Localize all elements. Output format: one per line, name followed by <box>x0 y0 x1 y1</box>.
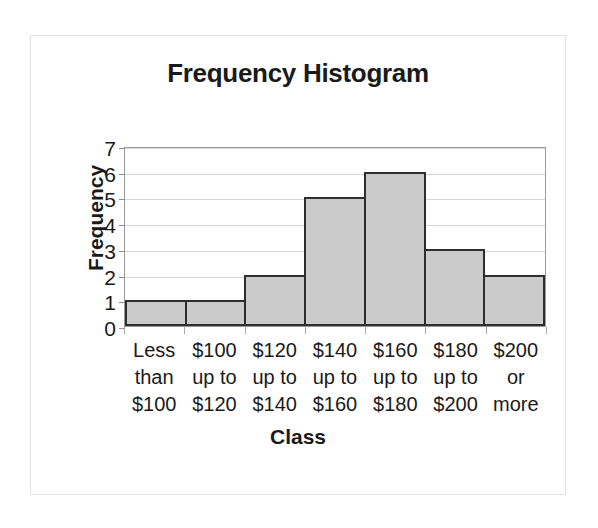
x-axis-ticks <box>124 327 546 334</box>
x-category-label-line: $120 <box>184 391 244 418</box>
x-category-label: $160up to$180 <box>365 337 425 418</box>
x-tick-mark <box>486 327 487 334</box>
x-category-label-line: $120 <box>245 337 305 364</box>
x-category-label: $100up to$120 <box>184 337 244 418</box>
x-tick-mark <box>425 327 426 334</box>
x-category-label-line: $180 <box>365 391 425 418</box>
histogram-bar <box>424 249 486 326</box>
x-category-label-line: more <box>486 391 546 418</box>
x-category-label: Lessthan$100 <box>124 337 184 418</box>
x-tick-mark <box>184 327 185 334</box>
chart-frame: Frequency Histogram Frequency 76543210 L… <box>30 35 566 495</box>
x-category-label-line: or <box>486 364 546 391</box>
x-category-label: $140up to$160 <box>305 337 365 418</box>
x-category-label-line: $140 <box>245 391 305 418</box>
histogram-bar <box>364 172 426 326</box>
x-category-label-line: up to <box>365 364 425 391</box>
x-category-label-line: Less <box>124 337 184 364</box>
histogram-bar <box>244 275 306 326</box>
x-tick-mark <box>365 327 366 334</box>
plot-area: 76543210 <box>124 147 546 327</box>
histogram-screenshot: Frequency Histogram Frequency 76543210 L… <box>0 0 598 528</box>
x-category-label-line: up to <box>245 364 305 391</box>
y-tick-label: 2 <box>104 266 116 287</box>
x-tick-mark <box>546 327 547 334</box>
y-tick-label: 5 <box>104 189 116 210</box>
bars-container <box>125 148 545 326</box>
chart-title: Frequency Histogram <box>31 58 565 89</box>
histogram-bar <box>483 275 545 326</box>
y-tick-label: 7 <box>104 138 116 159</box>
x-tick-mark <box>305 327 306 334</box>
x-category-label: $200ormore <box>486 337 546 418</box>
x-category-label-line: up to <box>305 364 365 391</box>
y-tick-label: 6 <box>104 163 116 184</box>
x-category-label-line: $140 <box>305 337 365 364</box>
x-category-label-line: $100 <box>124 391 184 418</box>
x-category-label-line: $200 <box>486 337 546 364</box>
histogram-bar <box>125 300 187 326</box>
y-tick-label: 0 <box>104 318 116 339</box>
x-axis-baseline <box>125 324 545 326</box>
x-axis-labels: Lessthan$100$100up to$120$120up to$140$1… <box>124 337 546 418</box>
x-axis-title: Class <box>31 425 565 449</box>
x-category-label-line: $160 <box>305 391 365 418</box>
y-tick-label: 1 <box>104 292 116 313</box>
x-category-label-line: $160 <box>365 337 425 364</box>
x-category-label: $120up to$140 <box>245 337 305 418</box>
x-category-label-line: up to <box>425 364 485 391</box>
x-category-label-line: up to <box>184 364 244 391</box>
x-category-label-line: $100 <box>184 337 244 364</box>
x-category-label-line: $200 <box>425 391 485 418</box>
histogram-bar <box>304 197 366 326</box>
x-category-label-line: $180 <box>425 337 485 364</box>
y-tick-label: 4 <box>104 215 116 236</box>
x-tick-mark <box>124 327 125 334</box>
x-tick-mark <box>245 327 246 334</box>
x-category-label: $180up to$200 <box>425 337 485 418</box>
x-category-label-line: than <box>124 364 184 391</box>
y-tick-label: 3 <box>104 240 116 261</box>
histogram-bar <box>185 300 247 326</box>
